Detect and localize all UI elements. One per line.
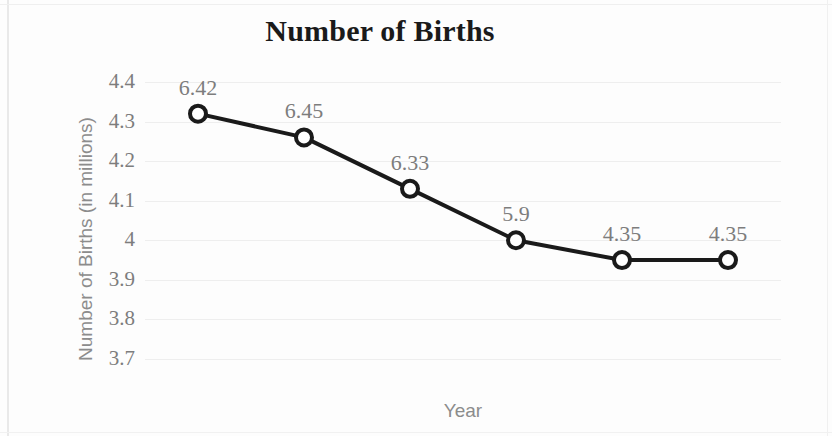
y-tick-label: 3.7: [89, 348, 135, 369]
y-tick-label: 4.1: [89, 190, 135, 211]
page-border-top: [0, 4, 832, 5]
data-point-marker: [720, 252, 736, 268]
data-point-label: 4.35: [688, 221, 768, 247]
chart-title: Number of Births: [0, 14, 760, 48]
data-point-marker: [508, 232, 524, 248]
plot-area: 4.44.34.24.143.93.83.7 20072008200920102…: [145, 78, 781, 363]
data-point-marker: [614, 252, 630, 268]
chart-page: Number of Births Number of Births (in mi…: [0, 0, 832, 436]
data-point-marker: [296, 129, 312, 145]
data-point-label: 6.45: [264, 98, 344, 124]
data-point-label: 6.42: [158, 75, 238, 101]
x-axis-title: Year: [145, 400, 781, 422]
page-border-right: [827, 0, 828, 436]
y-tick-label: 4.4: [89, 71, 135, 92]
line-series: [145, 78, 781, 363]
data-point-label: 4.35: [582, 221, 662, 247]
page-border-left: [7, 0, 9, 436]
y-tick-label: 4.2: [89, 150, 135, 171]
data-point-label: 6.33: [370, 150, 450, 176]
data-point-label: 5.9: [476, 201, 556, 227]
y-tick-label: 3.8: [89, 308, 135, 329]
page-border-bottom: [0, 432, 832, 433]
y-tick-label: 4.3: [89, 111, 135, 132]
data-point-marker: [190, 106, 206, 122]
data-point-marker: [402, 181, 418, 197]
y-tick-label: 4: [89, 229, 135, 250]
y-tick-label: 3.9: [89, 269, 135, 290]
